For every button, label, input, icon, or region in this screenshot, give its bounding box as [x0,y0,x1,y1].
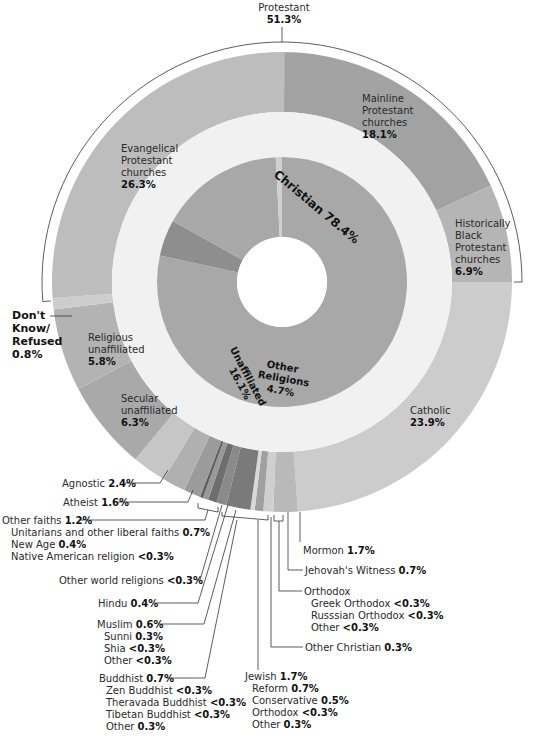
label-text: Refused [12,335,62,348]
label-catholic: Catholic 23.9% [410,405,451,429]
label-text: unaffiliated [88,344,145,355]
sub-item: New Age 0.4% [2,539,210,551]
label-value: 0.6% [136,619,164,630]
sub-text: Tibetan Buddhist [106,709,191,720]
sub-value: <0.3% [194,709,230,720]
sub-item: Conservative 0.5% [245,695,349,707]
label-value: <0.3% [167,575,203,586]
label-value: 51.3% [267,14,302,25]
sub-value: <0.3% [210,697,246,708]
sub-value: <0.3% [302,707,338,718]
sub-text: Theravada Buddhist [106,697,207,708]
label-value: 6.9% [455,266,483,277]
label-mormon: Mormon 1.7% [303,545,375,557]
label-text: Catholic [410,405,451,416]
label-text: Secular [121,393,158,404]
label-text: Muslim [97,619,132,630]
label-value: 1.7% [280,671,308,682]
orthodox-leader [279,521,302,591]
label-text: Agnostic [62,478,105,489]
label-text: churches [455,254,500,265]
label-text: churches [121,167,166,178]
label-secular-unaffiliated: Secular unaffiliated 6.3% [121,393,178,429]
sub-value: 0.5% [321,695,349,706]
label-value: 26.3% [121,179,156,190]
label-other-christian: Other Christian 0.3% [305,642,412,654]
sub-text: Unitarians and other liberal faiths [11,527,179,538]
label-value: 0.3% [384,642,412,653]
label-text: Hindu [98,598,127,609]
atheist-leader [118,490,193,502]
label-value: 6.3% [121,417,149,428]
sub-item: Russsian Orthodox <0.3% [304,610,444,622]
label-text: Religious [88,332,133,343]
label-other-world-religions: Other world religions <0.3% [59,575,203,587]
label-text: churches [362,117,407,128]
sub-text: Reform [252,683,288,694]
sub-value: 0.7% [291,683,319,694]
label-text: unaffiliated [121,405,178,416]
label-text: Other Christian [305,642,381,653]
sub-text: Greek Orthodox [311,598,390,609]
sub-text: Sunni [104,631,132,642]
label-jewish: Jewish 1.7% Reform 0.7% Conservative 0.5… [245,671,349,731]
sub-text: Shia [104,643,126,654]
label-text: Mormon [303,545,344,556]
sub-text: Orthodox [252,707,298,718]
label-value: 23.9% [410,417,445,428]
label-protestant: Protestant 51.3% [256,2,312,26]
label-text: Atheist [63,497,98,508]
sub-item: Other <0.3% [97,655,172,667]
label-text: Protestant [121,155,172,166]
sub-value: 0.3% [284,719,312,730]
label-value: 5.8% [88,356,116,367]
sub-text: Other [311,622,339,633]
label-mainline: Mainline Protestant churches 18.1% [362,93,413,141]
sub-item: Shia <0.3% [97,643,172,655]
sub-item: Other 0.3% [99,721,246,733]
label-text: Mainline [362,93,404,104]
label-dont-know: Don't Know/ Refused 0.8% [12,309,62,361]
sub-text: Russsian Orthodox [311,610,404,621]
sub-item: Greek Orthodox <0.3% [304,598,444,610]
sub-text: Native American religion [11,551,135,562]
label-other-faiths: Other faiths 1.2% Unitarians and other l… [2,515,210,563]
label-text: Protestant [258,2,309,13]
label-text: Jewish [245,671,277,682]
sub-item: Zen Buddhist <0.3% [99,685,246,697]
sub-text: Other [104,655,132,666]
label-agnostic: Agnostic 2.4% [62,478,136,490]
label-text: Orthodox [304,586,350,597]
label-text: Buddhist [99,673,143,684]
sub-text: Other [106,721,134,732]
sub-value: <0.3% [343,622,379,633]
label-text: Jehovah's Witness [305,565,395,576]
nested-donut-chart: Christian 78.4%Unaffiliated16.1%OtherRel… [0,0,537,741]
sub-text: New Age [11,539,55,550]
sub-item: Theravada Buddhist <0.3% [99,697,246,709]
sub-value: 0.3% [135,631,163,642]
label-muslim: Muslim 0.6% Sunni 0.3% Shia <0.3% Other … [97,619,172,667]
orthodox-bracket [274,515,283,521]
label-text: Protestant [455,242,506,253]
label-jehovahs-witness: Jehovah's Witness 0.7% [305,565,426,577]
sub-item: Unitarians and other liberal faiths 0.7% [2,527,210,539]
label-value: 1.6% [101,497,129,508]
label-value: 2.4% [108,478,136,489]
sub-value: <0.3% [138,551,174,562]
sub-value: <0.3% [176,685,212,696]
label-text: Protestant [362,105,413,116]
sub-value: 0.7% [182,527,210,538]
label-text: Know/ [12,322,50,335]
jehovah-leader [288,512,303,570]
sub-item: Reform 0.7% [245,683,349,695]
sub-value: <0.3% [394,598,430,609]
label-value: 1.7% [347,545,375,556]
slice-mormon [273,452,298,512]
label-value: 0.7% [399,565,427,576]
sub-item: Sunni 0.3% [97,631,172,643]
sub-item: Orthodox <0.3% [245,707,349,719]
label-value: 0.8% [12,348,43,361]
label-black-protestant: Historically Black Protestant churches 6… [455,218,511,278]
sub-text: Conservative [252,695,318,706]
